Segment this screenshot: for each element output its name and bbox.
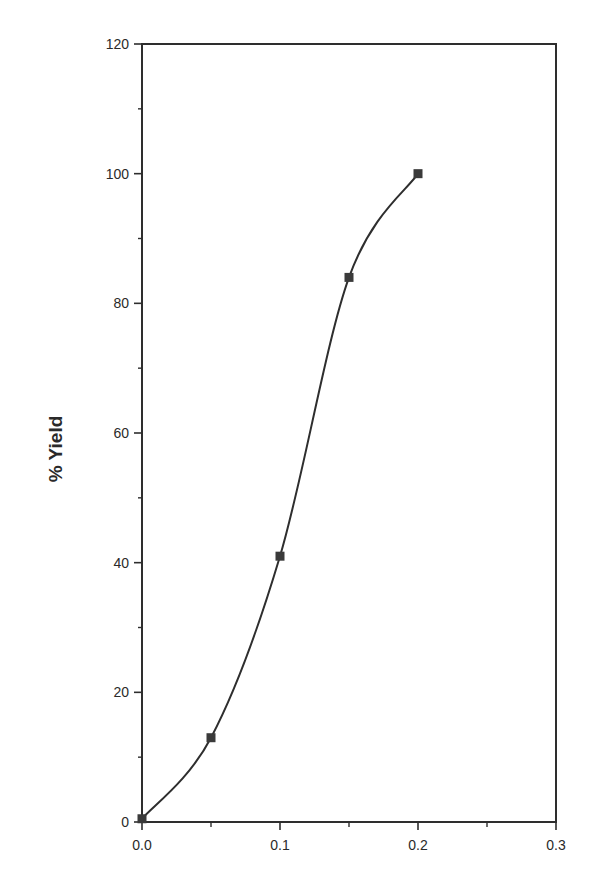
x-tick-label: 0.1 (270, 837, 290, 853)
y-tick-label: 120 (106, 36, 130, 52)
y-tick-label: 20 (113, 684, 129, 700)
y-tick-label: 60 (113, 425, 129, 441)
plot-frame (142, 44, 556, 822)
data-series (138, 169, 423, 823)
data-point-marker (138, 814, 147, 823)
y-tick-label: 80 (113, 295, 129, 311)
x-tick-label: 0.2 (408, 837, 428, 853)
y-axis-label: % Yield (45, 416, 66, 483)
x-tick-label: 0.0 (132, 837, 152, 853)
axes (142, 44, 556, 822)
data-point-marker (276, 552, 285, 561)
y-tick-label: 100 (106, 166, 130, 182)
yield-line-chart: 0204060801001200.00.10.20.3 % Yield (0, 0, 597, 895)
tick-labels: 0204060801001200.00.10.20.3 (106, 36, 566, 853)
chart-container: 0204060801001200.00.10.20.3 % Yield (0, 0, 597, 895)
yield-curve (142, 174, 418, 819)
axis-ticks (134, 44, 556, 830)
x-tick-label: 0.3 (546, 837, 566, 853)
data-point-marker (345, 273, 354, 282)
data-point-marker (207, 733, 216, 742)
y-tick-label: 0 (121, 814, 129, 830)
data-point-marker (414, 169, 423, 178)
y-tick-label: 40 (113, 555, 129, 571)
